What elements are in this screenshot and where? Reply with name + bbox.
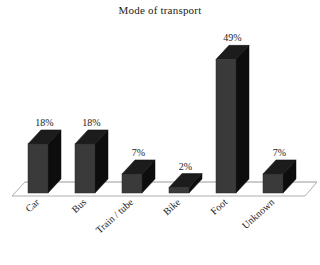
category-axis-labels: CarBusTrain / tubeBikeFootUnknown [23, 196, 276, 236]
bar-value-label: 18% [82, 117, 100, 128]
category-label-train-tube: Train / tube [94, 196, 136, 236]
category-label-bike: Bike [161, 196, 183, 217]
category-label-unknown: Unknown [240, 196, 277, 231]
bar-value-label: 7% [132, 147, 145, 158]
bar-value-label: 7% [273, 147, 286, 158]
bar-car [28, 130, 61, 193]
category-label-car: Car [23, 196, 42, 214]
category-label-bus: Bus [69, 196, 88, 215]
bar-bus [75, 130, 108, 193]
category-label-foot: Foot [208, 196, 229, 217]
bar-foot [216, 45, 249, 193]
bar-value-label: 18% [35, 117, 53, 128]
bars-layer [28, 45, 296, 193]
chart-container: Mode of transport 18%18%7%2%49%7% CarBus… [0, 0, 320, 265]
bar-value-label: 2% [179, 161, 192, 172]
chart-plot-area: 18%18%7%2%49%7% CarBusTrain / tubeBikeFo… [0, 0, 320, 265]
bar-value-label: 49% [223, 32, 241, 43]
